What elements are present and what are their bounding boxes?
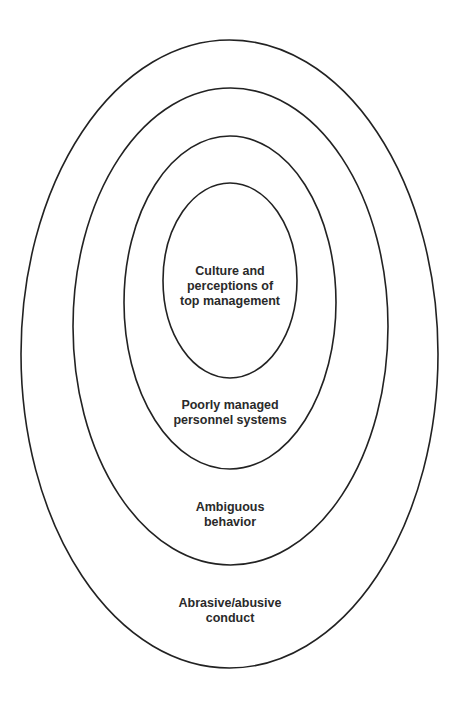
label-line: Poorly managed [173,398,286,413]
label-line: Culture and [180,264,280,279]
label-line: top management [180,294,280,309]
label-personnel-systems: Poorly managed personnel systems [173,398,286,428]
label-ambiguous-behavior: Ambiguous behavior [196,500,265,530]
ellipse-abrasive-conduct [21,40,438,668]
label-line: perceptions of [180,279,280,294]
label-line: Ambiguous [196,500,265,515]
label-line: personnel systems [173,413,286,428]
ellipse-ambiguous-behavior [73,88,388,565]
label-line: conduct [179,611,282,626]
label-line: Abrasive/abusive [179,596,282,611]
label-culture-top-management: Culture and perceptions of top managemen… [180,264,280,309]
label-abrasive-conduct: Abrasive/abusive conduct [179,596,282,626]
label-line: behavior [196,515,265,530]
